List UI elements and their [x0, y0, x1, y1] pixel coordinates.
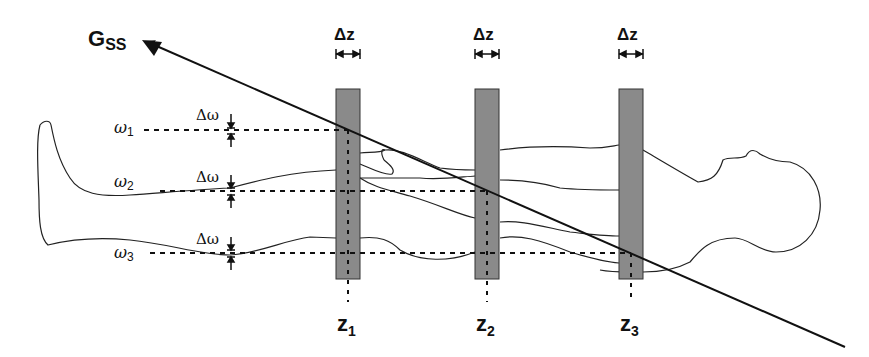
omega-label-1: ω1: [114, 120, 134, 138]
slice-2: [475, 89, 499, 279]
delta-omega-label-3: Δω: [196, 232, 219, 247]
slice-rectangles: [336, 89, 643, 279]
delta-z-arrows: [336, 49, 643, 59]
delta-z-arrow-3: [619, 49, 643, 59]
delta-omega-label-2: Δω: [196, 170, 219, 185]
delta-z-label-3: Δz: [617, 26, 638, 43]
body-outline: [38, 121, 821, 272]
delta-z-arrow-1: [336, 49, 360, 59]
delta-z-arrow-2: [475, 49, 499, 59]
slice-selection-diagram: GSS Δz Δz Δz Δω Δω Δω ω1 ω2 ω3 z1 z2 z3: [0, 0, 869, 357]
slice-label-3: z3: [620, 313, 639, 338]
delta-z-label-2: Δz: [473, 26, 494, 43]
omega-label-3: ω3: [114, 245, 134, 263]
delta-omega-label-1: Δω: [196, 108, 219, 123]
slice-label-2: z2: [476, 313, 495, 338]
omega-label-2: ω2: [114, 174, 134, 192]
delta-z-label-1: Δz: [334, 26, 355, 43]
slice-label-1: z1: [337, 313, 356, 338]
gradient-label: GSS: [88, 28, 126, 53]
